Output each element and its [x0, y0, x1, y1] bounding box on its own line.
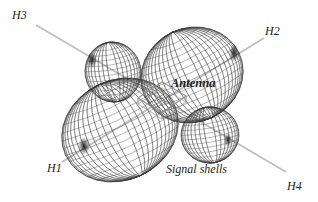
shell-upper-right-meridian — [130, 13, 253, 137]
shell-lower-left-meridian — [51, 62, 190, 198]
pole-h3 — [87, 52, 97, 68]
shell-upper-right-meridian — [172, 32, 212, 117]
shell-lower-left-meridian — [58, 66, 182, 195]
shell-lower-right-meridian — [177, 102, 243, 167]
shell-lower-left-parallel — [97, 145, 175, 185]
direction-label-h4: H4 — [286, 179, 302, 193]
axis-lines — [36, 25, 286, 172]
shell-lower-left-meridian — [58, 66, 182, 195]
shell-lower-right-meridian — [177, 102, 243, 167]
shell-lower-left-meridian — [51, 62, 190, 198]
antenna-label: Antenna — [170, 76, 215, 90]
antenna-diagram: H3 H2 H1 H4 Antenna Signal shells — [0, 0, 318, 202]
shell-upper-left-parallel — [85, 67, 141, 79]
direction-label-h3: H3 — [11, 8, 27, 22]
direction-label-h2: H2 — [264, 24, 280, 38]
shell-upper-right-meridian — [130, 13, 253, 137]
direction-label-h1: H1 — [46, 161, 62, 175]
shell-upper-left-meridian — [98, 41, 127, 103]
pole-h2 — [229, 44, 239, 62]
pole-h4 — [224, 133, 232, 147]
shell-upper-right — [125, 10, 259, 139]
shell-upper-left-meridian — [98, 41, 127, 103]
signal-shells-label: Signal shells — [166, 162, 227, 176]
shell-lower-right-outline — [177, 102, 244, 167]
pole-h1 — [78, 137, 90, 155]
shell-upper-left — [80, 38, 146, 107]
shell-lower-right — [177, 102, 244, 167]
